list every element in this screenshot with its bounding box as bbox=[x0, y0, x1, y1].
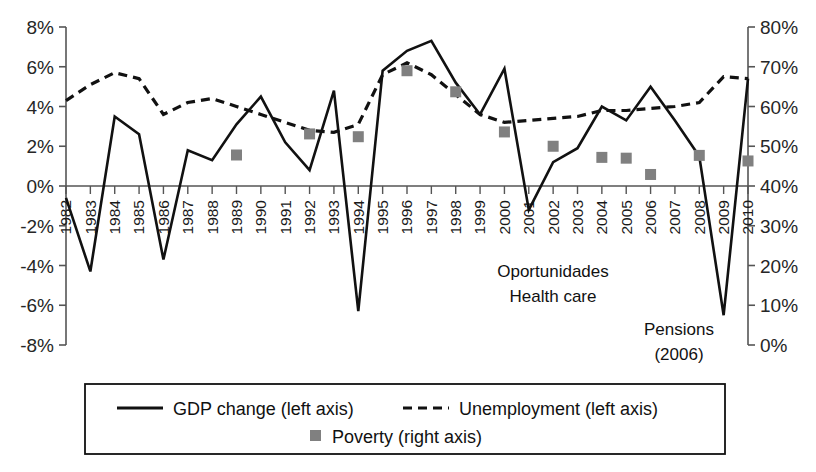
x-axis-year-label: 1992 bbox=[301, 200, 318, 234]
x-axis-year-label: 1991 bbox=[277, 200, 294, 234]
x-axis-year-label: 1990 bbox=[252, 200, 269, 235]
x-axis-year-label: 2008 bbox=[691, 200, 708, 234]
left-axis: 8%6%4%2%0%-2%-4%-6%-8% bbox=[20, 17, 66, 356]
poverty-marker bbox=[450, 86, 461, 97]
x-axis-year-label: 1989 bbox=[228, 200, 245, 234]
poverty-marker bbox=[402, 65, 413, 76]
legend-label-gdp: GDP change (left axis) bbox=[173, 399, 354, 419]
left-axis-tick-label: -6% bbox=[20, 295, 54, 316]
x-axis-year-label: 2002 bbox=[545, 200, 562, 234]
x-axis-year-label: 2004 bbox=[593, 200, 610, 235]
left-axis-tick-label: 6% bbox=[27, 57, 55, 78]
x-axis-year-label: 2009 bbox=[715, 200, 732, 234]
poverty-marker bbox=[645, 169, 656, 180]
x-axis-year-label: 1984 bbox=[106, 200, 123, 235]
x-axis-year-label: 1996 bbox=[398, 200, 415, 234]
left-axis-tick-label: -2% bbox=[20, 216, 54, 237]
x-axis-year-label: 1985 bbox=[130, 200, 147, 234]
poverty-marker bbox=[499, 126, 510, 137]
left-axis-tick-label: -8% bbox=[20, 335, 54, 356]
left-axis-tick-label: 0% bbox=[27, 176, 55, 197]
annotation-oportunidades: OportunidadesHealth care bbox=[497, 262, 609, 306]
poverty-marker bbox=[231, 149, 242, 160]
poverty-marker bbox=[596, 152, 607, 163]
x-axis-year-label: 2006 bbox=[642, 200, 659, 234]
x-axis-year-label: 2010 bbox=[739, 200, 756, 235]
series-layer bbox=[66, 41, 754, 315]
legend: GDP change (left axis)Unemployment (left… bbox=[85, 384, 725, 454]
right-axis-tick-label: 70% bbox=[760, 57, 798, 78]
poverty-marker bbox=[694, 150, 705, 161]
x-axis: 1982198319841985198619871988198919901991… bbox=[57, 186, 756, 234]
right-axis: 80%70%60%50%40%30%20%10%0% bbox=[748, 17, 798, 356]
x-axis-year-label: 1999 bbox=[471, 200, 488, 234]
x-axis-year-label: 1998 bbox=[447, 200, 464, 234]
poverty-marker bbox=[304, 128, 315, 139]
right-axis-tick-label: 20% bbox=[760, 256, 798, 277]
x-axis-year-label: 2003 bbox=[569, 200, 586, 234]
chart-container: 8%6%4%2%0%-2%-4%-6%-8% 80%70%60%50%40%30… bbox=[0, 0, 816, 472]
left-axis-tick-label: -4% bbox=[20, 256, 54, 277]
left-axis-tick-label: 2% bbox=[27, 136, 55, 157]
poverty-marker bbox=[353, 131, 364, 142]
right-axis-tick-label: 30% bbox=[760, 216, 798, 237]
annotation-pensions: Pensions(2006) bbox=[644, 320, 714, 364]
legend-label-poverty: Poverty (right axis) bbox=[332, 427, 482, 447]
x-axis-year-label: 1995 bbox=[374, 200, 391, 234]
x-axis-year-label: 1993 bbox=[325, 200, 342, 234]
legend-label-unemployment: Unemployment (left axis) bbox=[459, 399, 658, 419]
right-axis-tick-label: 50% bbox=[760, 136, 798, 157]
x-axis-year-label: 2005 bbox=[618, 200, 635, 234]
x-axis-year-label: 1997 bbox=[423, 200, 440, 234]
x-axis-year-label: 1987 bbox=[179, 200, 196, 234]
right-axis-tick-label: 60% bbox=[760, 97, 798, 118]
legend-swatch-poverty-marker bbox=[310, 430, 321, 441]
poverty-marker bbox=[548, 141, 559, 152]
economic-indicators-chart: 8%6%4%2%0%-2%-4%-6%-8% 80%70%60%50%40%30… bbox=[0, 0, 816, 472]
right-axis-tick-label: 80% bbox=[760, 17, 798, 38]
right-axis-tick-label: 40% bbox=[760, 176, 798, 197]
x-axis-year-label: 1988 bbox=[204, 200, 221, 234]
left-axis-tick-label: 8% bbox=[27, 17, 55, 38]
right-axis-tick-label: 10% bbox=[760, 295, 798, 316]
annotations-layer: OportunidadesHealth carePensions(2006) bbox=[497, 262, 714, 364]
x-axis-year-label: 2000 bbox=[496, 200, 513, 235]
x-axis-year-label: 1994 bbox=[350, 200, 367, 235]
poverty-marker bbox=[621, 153, 632, 164]
x-axis-year-label: 2007 bbox=[666, 200, 683, 234]
poverty-marker bbox=[743, 155, 754, 166]
right-axis-tick-label: 0% bbox=[760, 335, 788, 356]
left-axis-tick-label: 4% bbox=[27, 97, 55, 118]
